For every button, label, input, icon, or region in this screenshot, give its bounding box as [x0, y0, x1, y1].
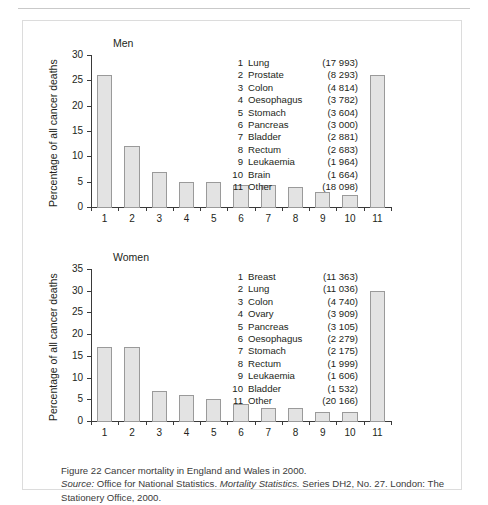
legend-value: (1 532) — [310, 383, 358, 395]
x-tick-women-11 — [391, 421, 392, 425]
legend-item-men-6: 6Pancreas(3 000) — [228, 119, 358, 131]
legend-value: (1 664) — [310, 169, 358, 181]
legend-number: 1 — [228, 271, 248, 283]
legend-item-men-7: 7Bladder(2 881) — [228, 131, 358, 143]
x-tick-label-men-9: 9 — [309, 213, 337, 224]
legend-number: 6 — [228, 333, 248, 345]
legend-value: (2 683) — [310, 144, 358, 156]
legend-value: (8 293) — [310, 69, 358, 81]
bar-women-1 — [97, 347, 112, 422]
x-tick-women-10 — [364, 421, 365, 425]
y-axis-line-men — [91, 55, 92, 208]
x-tick-label-women-9: 9 — [309, 427, 337, 438]
x-tick-women-2 — [146, 421, 147, 425]
legend-value: (3 000) — [310, 119, 358, 131]
x-tick-women-5 — [227, 421, 228, 425]
bar-men-4 — [179, 182, 194, 208]
legend-number: 11 — [228, 395, 248, 407]
legend-item-women-8: 8Rectum(1 999) — [228, 358, 358, 370]
legend-number: 1 — [228, 57, 248, 69]
x-tick-label-men-11: 11 — [363, 213, 391, 224]
y-tick-men-15 — [87, 131, 91, 132]
bar-women-5 — [206, 399, 221, 422]
x-tick-label-men-10: 10 — [336, 213, 364, 224]
legend-value: (2 881) — [310, 131, 358, 143]
legend-number: 5 — [228, 321, 248, 333]
legend-number: 4 — [228, 94, 248, 106]
legend-item-men-2: 2Prostate(8 293) — [228, 69, 358, 81]
legend-value: (11 363) — [310, 271, 358, 283]
legend-value: (17 993) — [310, 57, 358, 69]
bar-men-2 — [124, 146, 139, 208]
legend-number: 8 — [228, 358, 248, 370]
x-tick-label-women-11: 11 — [363, 427, 391, 438]
chart-title-women: Women — [113, 251, 149, 263]
bar-women-8 — [288, 408, 303, 422]
x-tick-label-women-7: 7 — [254, 427, 282, 438]
y-tick-men-5 — [87, 182, 91, 183]
x-tick-women-0 — [91, 421, 92, 425]
legend-number: 2 — [228, 283, 248, 295]
x-tick-label-men-5: 5 — [200, 213, 228, 224]
y-tick-label-women-15: 15 — [57, 350, 83, 361]
bar-women-3 — [152, 391, 167, 422]
x-tick-label-women-10: 10 — [336, 427, 364, 438]
bar-women-7 — [261, 408, 276, 422]
legend-value: (11 036) — [310, 283, 358, 295]
x-tick-label-women-6: 6 — [227, 427, 255, 438]
y-tick-women-15 — [87, 356, 91, 357]
y-tick-men-25 — [87, 80, 91, 81]
legend-label: Oesophagus — [248, 333, 310, 345]
y-axis-line-women — [91, 269, 92, 422]
y-tick-women-20 — [87, 334, 91, 335]
legend-item-men-1: 1Lung(17 993) — [228, 57, 358, 69]
y-tick-women-10 — [87, 378, 91, 379]
x-tick-men-9 — [336, 207, 337, 211]
legend-label: Breast — [248, 271, 310, 283]
legend-value: (18 098) — [310, 181, 358, 193]
chart-women: WomenPercentage of all cancer deaths0510… — [23, 243, 463, 461]
x-tick-men-8 — [309, 207, 310, 211]
source-rest: Office for National Statistics. — [94, 478, 220, 489]
x-tick-men-0 — [91, 207, 92, 211]
legend-label: Rectum — [248, 358, 310, 370]
y-tick-label-women-20: 20 — [57, 328, 83, 339]
legend-label: Pancreas — [248, 321, 310, 333]
legend-number: 11 — [228, 181, 248, 193]
legend-value: (4 814) — [310, 82, 358, 94]
legend-value: (3 604) — [310, 107, 358, 119]
legend-label: Other — [248, 181, 310, 193]
legend-value: (1 606) — [310, 370, 358, 382]
legend-value: (4 740) — [310, 296, 358, 308]
x-tick-label-men-3: 3 — [145, 213, 173, 224]
legend-number: 9 — [228, 156, 248, 168]
x-tick-label-men-8: 8 — [282, 213, 310, 224]
legend-item-women-4: 4Ovary(3 909) — [228, 308, 358, 320]
legend-value: (1 999) — [310, 358, 358, 370]
x-tick-women-8 — [309, 421, 310, 425]
x-tick-men-5 — [227, 207, 228, 211]
x-tick-label-men-1: 1 — [91, 213, 119, 224]
y-tick-women-25 — [87, 312, 91, 313]
legend-number: 3 — [228, 296, 248, 308]
bar-men-9 — [315, 192, 330, 208]
x-tick-label-women-2: 2 — [118, 427, 146, 438]
legend-value: (20 166) — [310, 395, 358, 407]
legend-label: Leukaemia — [248, 156, 310, 168]
x-tick-men-7 — [282, 207, 283, 211]
legend-label: Pancreas — [248, 119, 310, 131]
x-tick-label-women-1: 1 — [91, 427, 119, 438]
y-tick-label-women-0: 0 — [57, 415, 83, 426]
legend-value: (3 105) — [310, 321, 358, 333]
y-tick-label-men-20: 20 — [57, 100, 83, 111]
x-tick-men-1 — [118, 207, 119, 211]
legend-number: 2 — [228, 69, 248, 81]
legend-label: Bladder — [248, 383, 310, 395]
legend-label: Leukaemia — [248, 370, 310, 382]
bar-women-4 — [179, 395, 194, 422]
figure-caption: Figure 22 Cancer mortality in England an… — [61, 464, 471, 504]
x-tick-label-men-6: 6 — [227, 213, 255, 224]
legend-item-women-9: 9Leukaemia(1 606) — [228, 370, 358, 382]
legend-label: Stomach — [248, 107, 310, 119]
legend-item-women-1: 1Breast(11 363) — [228, 271, 358, 283]
